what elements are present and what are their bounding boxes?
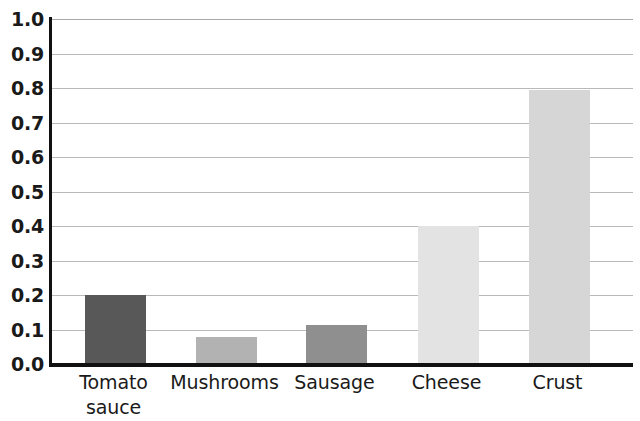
bar-mushrooms[interactable] [196, 337, 257, 364]
gridline-0.9 [52, 54, 633, 55]
x-tick-label-crust: Crust [489, 370, 626, 395]
bar-tomato-sauce[interactable] [85, 295, 146, 364]
y-axis-tick-labels: 1.0 0.9 0.8 0.7 0.6 0.5 0.4 0.3 0.2 0.1 … [0, 0, 44, 421]
gridline-1.0 [52, 19, 633, 20]
bar-crust[interactable] [529, 90, 590, 364]
y-tick-label: 0.8 [0, 79, 44, 98]
bar-cheese[interactable] [418, 226, 479, 364]
y-tick-label: 0.9 [0, 44, 44, 63]
bar-chart: 1.0 0.9 0.8 0.7 0.6 0.5 0.4 0.3 0.2 0.1 … [0, 0, 640, 421]
y-tick-label: 0.7 [0, 113, 44, 132]
y-tick-label: 0.1 [0, 320, 44, 339]
y-tick-label: 0.2 [0, 286, 44, 305]
y-axis-line [49, 17, 52, 366]
x-axis-category-labels: Tomato sauce Mushrooms Sausage Cheese Cr… [0, 370, 640, 421]
y-tick-label: 0.6 [0, 148, 44, 167]
y-tick-label: 0.3 [0, 251, 44, 270]
plot-area [52, 19, 633, 364]
y-tick-label: 0.5 [0, 182, 44, 201]
y-tick-label: 0.4 [0, 217, 44, 236]
x-axis-line [49, 363, 633, 367]
bar-sausage[interactable] [306, 325, 367, 364]
y-tick-label: 1.0 [0, 10, 44, 29]
